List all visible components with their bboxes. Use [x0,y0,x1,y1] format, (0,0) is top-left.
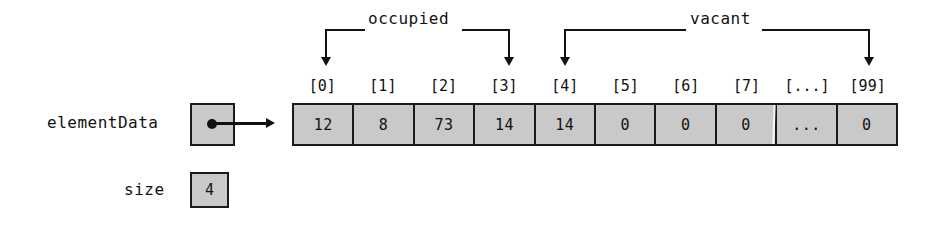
array-cell: 14 [536,105,596,144]
occupied-right-rule [462,29,510,31]
element-data-label: elementData [47,115,158,131]
array-index-label: [4] [534,76,595,96]
vacant-left-rule [564,29,686,31]
array-cell: ... [777,105,837,144]
array-index-label: [3] [474,76,535,96]
array-cell: 73 [415,105,475,144]
array-cell: 12 [294,105,354,144]
reference-arrow-icon [266,118,275,128]
array-index-label: [7] [716,76,777,96]
size-value-box: 4 [190,172,229,208]
array-index-label: [1] [353,76,414,96]
array-index-label: [0] [292,76,353,96]
vacant-left-arrow-icon [560,57,570,66]
occupied-left-stem [325,29,327,59]
occupied-left-arrow-icon [321,57,331,66]
size-label: size [124,182,165,198]
reference-arrow-shaft [212,122,268,125]
array-cell: 14 [475,105,535,144]
arraylist-diagram: occupied vacant [0] [1] [2] [3] [4] [5] … [0,0,934,226]
vacant-right-rule [762,29,870,31]
array-cell: 0 [656,105,716,144]
array-cell: 0 [838,105,896,144]
vacant-right-stem [868,29,870,59]
array-index-label: [...] [777,76,838,96]
array-cell: 8 [354,105,414,144]
vacant-right-arrow-icon [864,57,874,66]
occupied-right-stem [508,29,510,59]
array-cell: 0 [596,105,656,144]
vacant-label: vacant [690,11,751,27]
array-index-label: [5] [595,76,656,96]
array-index-label: [6] [656,76,717,96]
array-index-label: [2] [413,76,474,96]
array-index-label: [99] [837,76,898,96]
occupied-left-rule [325,29,365,31]
occupied-label: occupied [368,11,449,27]
element-data-array: 12 8 73 14 14 0 0 0 ... 0 [292,103,898,146]
array-index-row: [0] [1] [2] [3] [4] [5] [6] [7] [...] [9… [292,76,898,96]
occupied-right-arrow-icon [504,57,514,66]
array-cell: 0 [717,105,777,144]
vacant-left-stem [564,29,566,59]
